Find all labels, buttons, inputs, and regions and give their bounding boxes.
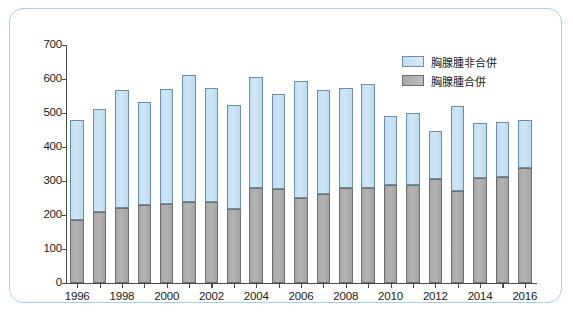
bar-segment-lower [205,202,219,283]
x-tick-label: 2014 [457,290,503,303]
bar-2006 [294,45,308,283]
bar-segment-upper [182,75,196,202]
x-tick-label: 2006 [278,290,324,303]
x-tick-label: 2004 [233,290,279,303]
x-tick-mark [167,284,168,288]
bar-segment-upper [272,94,286,189]
x-tick-mark [211,284,212,288]
bar-segment-lower [93,212,107,283]
x-tick-label: 1998 [99,290,145,303]
x-axis-ticks [66,284,537,289]
bar-segment-upper [93,109,107,212]
bar-2008 [339,45,353,283]
x-axis-tick-labels: 1996199820002002200420062008201020122014… [66,290,537,306]
bar-segment-lower [518,168,532,283]
bar-2003 [227,45,241,283]
x-tick-mark [279,284,280,288]
bar-segment-lower [138,205,152,283]
y-tick-label: 600 [28,73,62,85]
x-tick-label: 2016 [502,290,548,303]
x-tick-mark [189,284,190,288]
x-tick-mark [100,284,101,288]
x-tick-mark [144,284,145,288]
bar-2005 [272,45,286,283]
legend-item-1: 胸腺腫合併 [402,72,534,89]
y-tick-label: 500 [28,107,62,119]
x-tick-mark [122,284,123,288]
bar-segment-upper [361,84,375,188]
x-tick-mark [525,284,526,288]
bar-segment-lower [406,185,420,283]
bar-2004 [249,45,263,283]
legend-label: 胸腺腫合併 [431,73,486,89]
legend: 胸腺腫非合併胸腺腫合併 [402,53,534,91]
bar-segment-upper [160,89,174,204]
bar-segment-lower [160,204,174,283]
bar-1997 [93,45,107,283]
bar-2001 [182,45,196,283]
bar-segment-lower [429,179,443,283]
bar-segment-upper [518,120,532,169]
bar-segment-upper [205,88,219,203]
x-tick-mark [256,284,257,288]
y-tick-label: 200 [28,209,62,221]
bar-segment-lower [227,209,241,283]
legend-item-0: 胸腺腫非合併 [402,53,534,70]
y-tick-label: 100 [28,243,62,255]
bar-segment-lower [115,208,129,283]
legend-swatch-icon [402,75,424,86]
bar-segment-lower [272,189,286,283]
bar-segment-upper [115,90,129,208]
bar-segment-upper [406,113,420,185]
x-tick-mark [480,284,481,288]
bar-2000 [160,45,174,283]
bar-segment-lower [182,202,196,283]
bar-segment-upper [138,102,152,205]
x-tick-label: 2008 [323,290,369,303]
x-tick-mark [435,284,436,288]
x-tick-label: 2000 [144,290,190,303]
bar-segment-upper [451,106,465,192]
y-axis-tick-labels: 0100200300400500600700 [24,45,62,283]
bar-segment-lower [317,194,331,283]
bar-segment-upper [429,131,443,179]
bar-1996 [70,45,84,283]
x-tick-label: 2002 [188,290,234,303]
y-tick-label: 700 [28,39,62,51]
x-tick-label: 2012 [412,290,458,303]
bar-segment-upper [473,123,487,178]
bar-2007 [317,45,331,283]
bar-segment-lower [361,188,375,283]
y-tick-label: 400 [28,141,62,153]
bar-segment-upper [496,122,510,177]
bar-segment-upper [339,88,353,188]
legend-label: 胸腺腫非合併 [431,54,497,70]
y-tick-label: 0 [28,277,62,289]
bar-2002 [205,45,219,283]
figure-frame: 0100200300400500600700 19961998200020022… [9,8,562,303]
x-tick-mark [77,284,78,288]
bar-segment-upper [384,116,398,185]
bar-segment-lower [451,191,465,283]
y-tick-label: 300 [28,175,62,187]
bar-segment-upper [294,81,308,198]
bar-2010 [384,45,398,283]
bar-segment-upper [227,105,241,209]
bar-1998 [115,45,129,283]
x-tick-label: 1996 [54,290,100,303]
bar-segment-lower [339,188,353,283]
x-tick-mark [458,284,459,288]
bar-segment-lower [70,220,84,283]
bar-segment-lower [384,185,398,283]
bar-segment-upper [249,77,263,188]
x-tick-mark [368,284,369,288]
bar-segment-lower [294,198,308,283]
x-tick-mark [346,284,347,288]
x-tick-mark [234,284,235,288]
x-tick-mark [502,284,503,288]
bar-1999 [138,45,152,283]
x-tick-mark [323,284,324,288]
bar-segment-upper [317,90,331,194]
x-tick-mark [391,284,392,288]
bar-2009 [361,45,375,283]
